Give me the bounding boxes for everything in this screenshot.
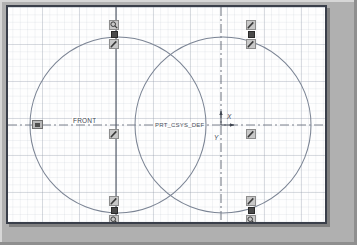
axis-y-arrowhead: [219, 111, 222, 115]
pencil-icon[interactable]: [246, 20, 256, 30]
bevel-highlight-left: [0, 0, 2, 245]
label-coord-system: PRT_CSYS_DEF: [154, 122, 205, 129]
grip-handle[interactable]: [111, 207, 118, 214]
coord-system-marker[interactable]: [32, 120, 43, 129]
axis-x-arrowhead: [230, 123, 234, 126]
handle-cluster-bottom-right[interactable]: [246, 196, 256, 222]
handle-cluster-middle-left[interactable]: [109, 129, 119, 139]
pencil-icon[interactable]: [246, 129, 256, 139]
desktop-background: FRONT PRT_CSYS_DEF X Y: [0, 0, 357, 245]
graphics-window-frame: FRONT PRT_CSYS_DEF X Y: [6, 5, 327, 224]
pencil-icon[interactable]: [109, 39, 119, 49]
handle-cluster-bottom-left[interactable]: [109, 196, 119, 222]
pencil-icon[interactable]: [109, 129, 119, 139]
magnifier-icon[interactable]: [109, 20, 119, 30]
pencil-icon[interactable]: [246, 196, 256, 206]
handle-cluster-top-left[interactable]: [109, 20, 119, 49]
label-axis-x: X: [226, 113, 233, 120]
coord-system-glyph: [35, 123, 40, 127]
magnifier-icon[interactable]: [246, 215, 256, 222]
grip-handle[interactable]: [248, 207, 255, 214]
label-axis-y: Y: [213, 134, 220, 141]
handle-cluster-top-right[interactable]: [246, 20, 256, 49]
bevel-highlight-top: [0, 0, 357, 2]
sketch-geometry: [8, 7, 325, 222]
label-front-plane: FRONT: [72, 117, 97, 124]
pencil-icon[interactable]: [109, 196, 119, 206]
pencil-icon[interactable]: [246, 39, 256, 49]
sketch-canvas[interactable]: FRONT PRT_CSYS_DEF X Y: [8, 7, 325, 222]
grip-handle[interactable]: [248, 31, 255, 38]
handle-cluster-middle-right[interactable]: [246, 129, 256, 139]
magnifier-icon[interactable]: [109, 215, 119, 222]
grip-handle[interactable]: [111, 31, 118, 38]
